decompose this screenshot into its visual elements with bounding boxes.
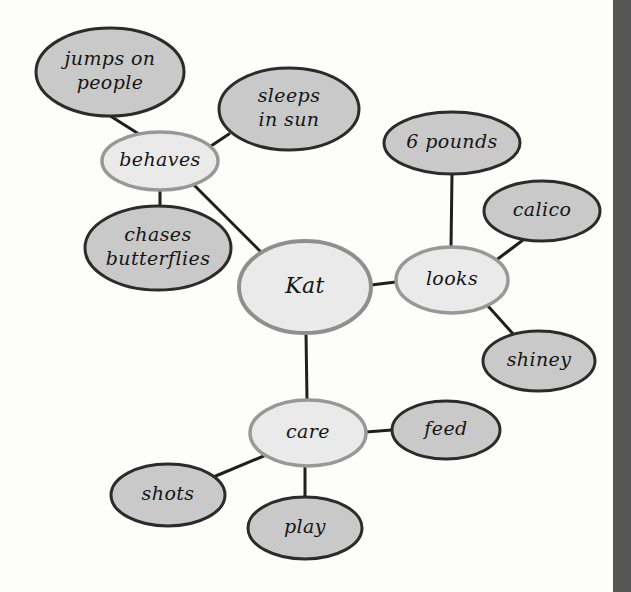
node-label-line: looks [426, 267, 478, 289]
node-label-play: play [284, 515, 326, 537]
node-label-behaves: behaves [119, 148, 201, 170]
node-label-line: Kat [284, 273, 325, 298]
node-label-line: shots [142, 482, 195, 504]
node-label-line: care [286, 420, 330, 442]
node-label-kat: Kat [284, 273, 325, 298]
node-label-line: sleeps [258, 84, 321, 106]
node-play[interactable]: play [248, 497, 362, 559]
node-shiney[interactable]: shiney [483, 331, 595, 391]
connector-line [366, 430, 392, 432]
connector-line [371, 282, 396, 285]
node-label-line: shiney [507, 348, 572, 370]
node-label-line: behaves [119, 148, 201, 170]
node-label-line: feed [422, 417, 467, 439]
node-label-line: play [284, 515, 326, 537]
node-label-calico: calico [513, 198, 572, 220]
node-label-sleeps-in-sun: sleepsin sun [258, 84, 321, 129]
node-label-six-pounds: 6 pounds [406, 130, 497, 152]
node-label-looks: looks [426, 267, 478, 289]
connector-line [488, 306, 514, 335]
node-sleeps-in-sun[interactable]: sleepsin sun [219, 68, 359, 150]
node-chases-butterflies[interactable]: chasesbutterflies [85, 206, 231, 290]
node-label-line: jumps on [61, 47, 156, 69]
connector-line [306, 333, 307, 400]
node-kat[interactable]: Kat [239, 241, 371, 333]
node-label-line: in sun [259, 108, 320, 130]
node-label-line: 6 pounds [406, 130, 497, 152]
node-behaves[interactable]: behaves [102, 132, 218, 190]
node-label-care: care [286, 420, 330, 442]
connector-line [211, 455, 266, 478]
node-six-pounds[interactable]: 6 pounds [384, 112, 520, 174]
node-label-line: people [77, 71, 144, 93]
node-feed[interactable]: feed [392, 401, 500, 459]
node-label-feed: feed [422, 417, 467, 439]
right-dark-strip [613, 0, 631, 592]
connector-line [451, 174, 452, 247]
connector-line [495, 240, 523, 261]
nodes-layer: Katbehaveslookscarejumps onpeoplesleepsi… [36, 28, 600, 559]
node-label-shiney: shiney [507, 348, 572, 370]
concept-map-canvas: Katbehaveslookscarejumps onpeoplesleepsi… [0, 0, 613, 592]
concept-map-page: Katbehaveslookscarejumps onpeoplesleepsi… [0, 0, 631, 592]
node-label-line: butterflies [106, 247, 211, 269]
node-jumps-on-people[interactable]: jumps onpeople [36, 28, 184, 116]
node-care[interactable]: care [250, 400, 366, 466]
node-label-shots: shots [142, 482, 195, 504]
node-calico[interactable]: calico [484, 181, 600, 241]
node-shots[interactable]: shots [111, 464, 225, 526]
node-label-line: chases [124, 223, 191, 245]
node-looks[interactable]: looks [396, 247, 508, 313]
node-label-line: calico [513, 198, 572, 220]
